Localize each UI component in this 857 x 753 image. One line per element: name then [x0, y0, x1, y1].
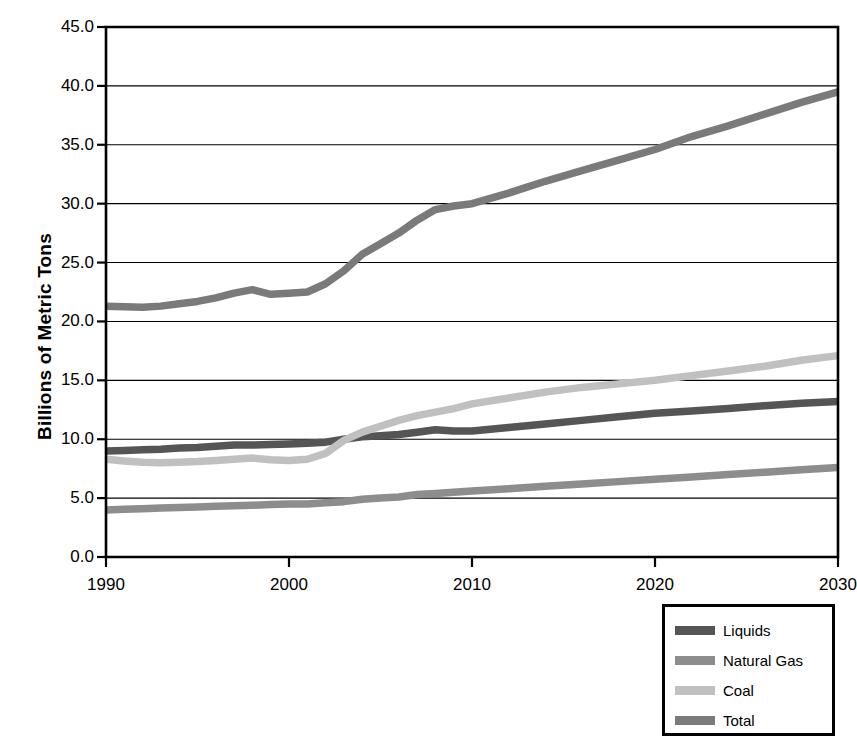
x-tick-label: 1990 — [87, 575, 125, 595]
y-tick-label: 20.0 — [30, 311, 94, 331]
chart-legend: LiquidsNatural GasCoalTotal — [662, 604, 835, 736]
legend-swatch-icon — [675, 626, 715, 635]
legend-swatch-icon — [675, 686, 715, 695]
x-tick-label: 2010 — [453, 575, 491, 595]
series-lines — [106, 92, 838, 510]
series-line-natural-gas — [106, 467, 838, 509]
legend-label: Total — [723, 712, 755, 729]
legend-label: Natural Gas — [723, 652, 803, 669]
legend-item-total[interactable]: Total — [675, 711, 755, 729]
y-tick-label: 10.0 — [30, 429, 94, 449]
y-tick-label: 30.0 — [30, 194, 94, 214]
y-tick-label: 35.0 — [30, 135, 94, 155]
legend-label: Coal — [723, 682, 754, 699]
y-tick-label: 5.0 — [30, 488, 94, 508]
y-tick-label: 15.0 — [30, 370, 94, 390]
series-line-total — [106, 92, 838, 308]
legend-item-coal[interactable]: Coal — [675, 681, 754, 699]
series-line-liquids — [106, 402, 838, 451]
x-tick-label: 2030 — [819, 575, 857, 595]
legend-swatch-icon — [675, 656, 715, 665]
y-tick-label: 40.0 — [30, 76, 94, 96]
y-tick-label: 45.0 — [30, 17, 94, 37]
legend-label: Liquids — [723, 622, 771, 639]
legend-item-liquids[interactable]: Liquids — [675, 621, 771, 639]
legend-swatch-icon — [675, 716, 715, 725]
y-tick-label: 25.0 — [30, 253, 94, 273]
x-tick-label: 2000 — [270, 575, 308, 595]
legend-item-natural-gas[interactable]: Natural Gas — [675, 651, 803, 669]
y-tick-label: 0.0 — [30, 547, 94, 567]
x-tick-label: 2020 — [636, 575, 674, 595]
